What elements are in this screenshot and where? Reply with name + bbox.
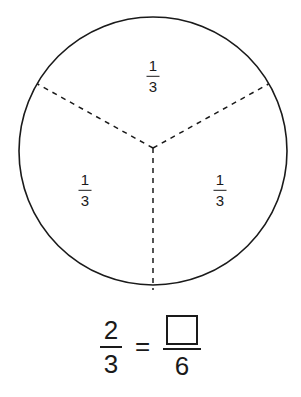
- slice-label-top-denominator: 3: [149, 78, 157, 94]
- slice-label-top-numerator: 1: [149, 58, 157, 74]
- slice-label-top-bar: [147, 75, 160, 76]
- slice-label-lower-left-denominator: 3: [81, 192, 89, 208]
- slice-label-lower-left-bar: [79, 189, 92, 190]
- slice-label-lower-left-numerator: 1: [81, 172, 89, 188]
- right-fraction: 6: [163, 315, 201, 379]
- slice-label-lower-right-denominator: 3: [216, 192, 224, 208]
- left-fraction: 2 3: [100, 317, 122, 377]
- right-fraction-denominator: 6: [175, 353, 189, 379]
- right-fraction-bar: [163, 348, 201, 350]
- slice-label-lower-right-bar: [214, 189, 227, 190]
- left-fraction-denominator: 3: [104, 351, 118, 377]
- equivalent-fraction-equation: 2 3 = 6: [0, 306, 301, 388]
- slice-label-top: 1 3: [147, 58, 160, 94]
- left-fraction-bar: [100, 346, 122, 348]
- equals-sign: =: [135, 333, 150, 361]
- worksheet-canvas: 1 3 1 3 1 3 2 3 = 6: [0, 0, 301, 397]
- left-fraction-numerator: 2: [104, 317, 118, 343]
- answer-box-input[interactable]: [166, 315, 198, 345]
- slice-label-lower-right-numerator: 1: [216, 172, 224, 188]
- slice-label-lower-right: 1 3: [214, 172, 227, 208]
- slice-label-lower-left: 1 3: [79, 172, 92, 208]
